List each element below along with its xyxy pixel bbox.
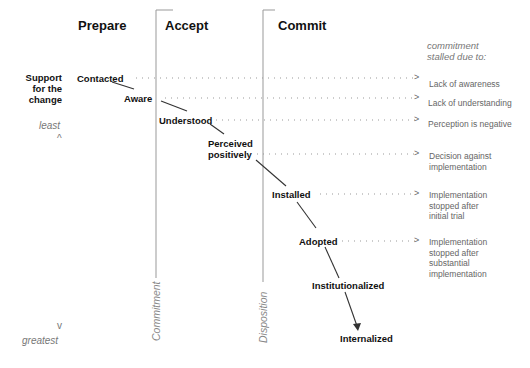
reason-line: Lack of awareness (429, 79, 500, 90)
threshold-disposition-label: Disposition (257, 292, 269, 343)
reason-line: Implementation (429, 237, 487, 248)
reason-line: implementation (429, 162, 491, 173)
commit-divider (263, 10, 275, 282)
stall-reason-perception-negative: Perception is negative (428, 119, 512, 130)
phase-accept: Accept (165, 18, 208, 33)
stall-dotted-lines (136, 78, 416, 241)
y-axis-least-label: least (39, 120, 60, 131)
stall-reason-lack-of-understanding: Lack of understanding (428, 98, 512, 109)
reason-line: initial trial (429, 211, 487, 222)
stall-reason-stopped-initial-trial: Implementation stopped after initial tri… (429, 190, 487, 222)
y-axis-greatest-label: greatest (22, 335, 58, 346)
stage-understood: Understood (159, 115, 212, 126)
arrow-right-icon: > (414, 114, 419, 124)
reason-line: stopped after (429, 201, 487, 212)
stage-aware: Aware (124, 93, 152, 104)
stage-adopted: Adopted (299, 236, 338, 247)
y-axis-title-line: for the (26, 83, 62, 94)
reason-line: Implementation (429, 190, 487, 201)
reason-line: implementation (429, 269, 487, 280)
stage-installed: Installed (272, 189, 311, 200)
threshold-commitment-label: Commitment (150, 281, 162, 341)
caret-down-icon: v (57, 320, 62, 331)
arrow-right-icon: > (414, 148, 419, 158)
stall-reason-stopped-substantial: Implementation stopped after substantial… (429, 237, 487, 279)
arrow-right-icon: > (414, 92, 419, 102)
phase-commit: Commit (278, 18, 326, 33)
phase-prepare: Prepare (78, 18, 126, 33)
accept-divider (156, 10, 173, 278)
reason-line: stopped after (429, 248, 487, 259)
stall-header-line: commitment (427, 40, 486, 51)
stage-contacted: Contacted (77, 73, 123, 84)
arrow-right-icon: > (414, 188, 419, 198)
y-axis-title: Support for the change (26, 72, 62, 105)
y-axis-title-line: Support (26, 72, 62, 83)
stage-label-line: positively (208, 149, 253, 160)
stall-header-line: stalled due to: (427, 51, 486, 62)
stage-label-line: Perceived (208, 138, 253, 149)
arrow-down-icon (353, 323, 361, 331)
reason-line: Perception is negative (428, 119, 512, 130)
stall-reason-lack-of-awareness: Lack of awareness (429, 79, 500, 90)
stall-header: commitment stalled due to: (427, 40, 486, 62)
arrow-right-icon: > (414, 72, 419, 82)
stage-perceived-positively: Perceived positively (208, 138, 253, 160)
stage-institutionalized: Institutionalized (312, 280, 384, 291)
y-axis-title-line: change (26, 94, 62, 105)
reason-line: Decision against (429, 151, 491, 162)
caret-up-icon: ^ (57, 133, 62, 144)
stall-reason-decision-against: Decision against implementation (429, 151, 491, 172)
arrow-right-icon: > (414, 235, 419, 245)
reason-line: Lack of understanding (428, 98, 512, 109)
stage-internalized: Internalized (340, 333, 393, 344)
reason-line: substantial (429, 258, 487, 269)
